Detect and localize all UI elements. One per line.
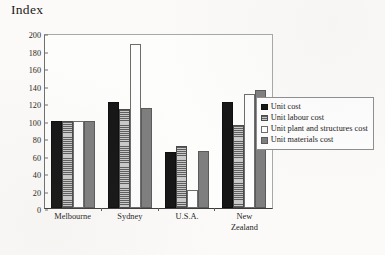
legend-item-label: Unit materials cost: [271, 135, 334, 145]
legend-swatch-icon: [261, 104, 268, 111]
y-tick-label-180: 180: [29, 48, 45, 57]
bar: [119, 109, 130, 208]
bar: [165, 152, 176, 208]
bar: [233, 125, 244, 208]
bar: [176, 146, 187, 208]
legend-swatch-icon: [261, 137, 268, 144]
y-tick-label-60: 60: [33, 153, 45, 162]
bar: [141, 108, 152, 208]
legend-swatch-icon: [261, 115, 268, 122]
legend-item[interactable]: Unit cost: [261, 102, 368, 112]
bar: [130, 44, 141, 209]
legend-item[interactable]: Unit plant and structures cost: [261, 124, 368, 134]
bar-group: [159, 35, 216, 208]
plot-area: 020406080100120140160180200: [44, 34, 273, 209]
y-tick-mark-0: [45, 210, 48, 211]
y-tick-label-20: 20: [33, 188, 45, 197]
y-tick-label-140: 140: [29, 83, 45, 92]
bar: [62, 121, 73, 209]
y-tick-label-80: 80: [33, 136, 45, 145]
x-axis-labels: MelbourneSydneyU.S.A.NewZealand: [44, 212, 273, 233]
y-tick-label-200: 200: [29, 31, 45, 40]
x-axis-label: U.S.A.: [159, 212, 216, 233]
bar-group: [102, 35, 159, 208]
x-tick-mark: [214, 208, 215, 211]
y-tick-label-40: 40: [33, 171, 45, 180]
x-axis-label: Sydney: [101, 212, 158, 233]
bar-group: [45, 35, 102, 208]
legend-item-label: Unit labour cost: [271, 113, 324, 123]
y-tick-label-120: 120: [29, 101, 45, 110]
bar: [51, 121, 62, 209]
y-tick-label-100: 100: [29, 118, 45, 127]
legend: Unit costUnit labour costUnit plant and …: [256, 97, 374, 150]
bar: [198, 151, 209, 208]
legend-item[interactable]: Unit materials cost: [261, 135, 368, 145]
bar: [222, 102, 233, 208]
bar: [84, 121, 95, 209]
y-tick-label-160: 160: [29, 66, 45, 75]
y-axis-title: Index: [11, 2, 43, 18]
bar: [73, 121, 84, 209]
x-tick-mark: [158, 208, 159, 211]
legend-item[interactable]: Unit labour cost: [261, 113, 368, 123]
x-axis-label: Melbourne: [44, 212, 101, 233]
legend-item-label: Unit plant and structures cost: [271, 124, 368, 134]
legend-item-label: Unit cost: [271, 102, 301, 112]
bar: [187, 190, 198, 208]
x-tick-mark: [101, 208, 102, 211]
bar-chart: Index 020406080100120140160180200 Melbou…: [0, 0, 385, 255]
x-axis-label: NewZealand: [216, 212, 273, 233]
bar: [108, 102, 119, 208]
bar: [244, 94, 255, 208]
legend-swatch-icon: [261, 126, 268, 133]
bar-groups: [45, 35, 272, 208]
